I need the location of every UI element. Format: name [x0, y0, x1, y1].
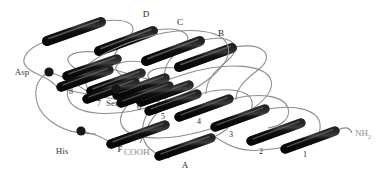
- helix-rods-upper: [47, 21, 232, 68]
- helix-rod-c-top: [99, 30, 153, 52]
- n-terminus-label: NH2: [355, 128, 371, 140]
- strand-label-8: 8: [69, 87, 73, 96]
- helix-label-c: C: [177, 17, 183, 27]
- beta-strand-rods: [61, 69, 335, 156]
- c-terminus-label: COOH: [124, 147, 150, 157]
- helix-label-b: B: [218, 28, 224, 38]
- strand-label-5: 5: [161, 112, 165, 121]
- strand-label-4: 4: [197, 117, 201, 126]
- residue-label-asp: Asp: [15, 67, 30, 77]
- n-terminus-subscript: 2: [368, 134, 371, 140]
- strand-label-1: 1: [303, 150, 307, 159]
- loop-path-f-left: [81, 131, 110, 142]
- helix-label-a: A: [182, 160, 189, 170]
- helix-label-f: F: [117, 144, 122, 154]
- helix-rod-f: [111, 124, 165, 144]
- loop-path-nh2: [338, 128, 352, 133]
- residue-label-his: His: [56, 146, 69, 156]
- residue-marker-his[interactable]: [76, 126, 85, 135]
- helix-rod-d-top: [47, 21, 101, 42]
- strand-label-3: 3: [229, 130, 233, 139]
- strand-label-7: 7: [97, 99, 101, 108]
- diagram-canvas: Asp Ser His A B C D F 1 2 3 4 5 6 7 8 NH…: [0, 0, 383, 178]
- residue-marker-asp[interactable]: [44, 67, 53, 76]
- residue-label-ser: Ser: [106, 98, 118, 108]
- strand-rod-3: [215, 108, 265, 127]
- helix-label-d: D: [143, 9, 150, 19]
- strand-rod-2: [251, 122, 301, 141]
- residue-marker-ser[interactable]: [111, 84, 120, 93]
- strand-label-2: 2: [259, 147, 263, 156]
- strand-label-6: 6: [137, 103, 141, 112]
- loop-path-back-1: [24, 42, 58, 88]
- strand-rod-1: [285, 130, 335, 149]
- protein-topology-diagram: Asp Ser His A B C D F 1 2 3 4 5 6 7 8 NH…: [0, 0, 383, 178]
- strand-rod-a: [159, 137, 211, 156]
- n-terminus-text: NH: [355, 128, 368, 138]
